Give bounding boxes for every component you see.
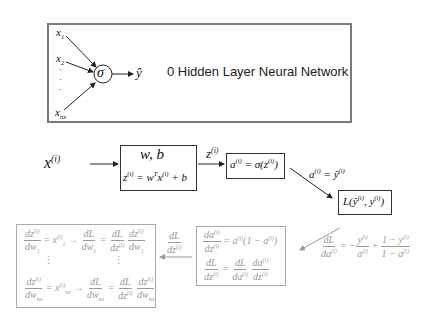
loss-function: L(ŷ(i), y(i)) — [343, 194, 384, 207]
vdots-right: ⋮ — [113, 254, 124, 267]
z-label: z(i) — [206, 146, 218, 162]
dL-dz-arrow-label: dLdz(i) — [166, 231, 183, 255]
dL-dz-equation: dLdz(i) = dLda(i) da(i)dz(i) — [203, 257, 269, 283]
dz-dwn-row: dz(i)dwnx = x(i)nx → dLdwnx = dLdz(i) dz… — [24, 276, 155, 302]
sigma-neuron: σ — [97, 65, 104, 81]
a-equals-yhat: a(i) = ŷ(i) — [309, 167, 345, 180]
diagram-title: 0 Hidden Layer Neural Network — [167, 64, 348, 79]
input-x1: x1 — [56, 26, 64, 40]
vdots-left: ⋮ — [43, 254, 54, 267]
dz-dw1-row: dz(i)dw1 = x(i)1 → dLdw1 = dLdz(i) dz(i)… — [24, 228, 145, 254]
activation-equation: a(i) = σ(z(i)) — [230, 157, 278, 170]
output-yhat: ŷ — [136, 65, 142, 81]
dL-da-equation: dLda(i) = −y(i)a(i) + 1 − y(i)1 − a(i) — [320, 234, 410, 260]
linear-equation: z(i) = wTx(i) + b — [123, 170, 187, 183]
input-dots: ··· — [59, 64, 62, 94]
params-wb: w, b — [140, 146, 164, 163]
input-x-i: x(i) — [44, 153, 60, 172]
da-dz-equation: da(i)dz(i) = a(i)(1 − a(i)) — [203, 229, 277, 255]
input-xnx: xnx — [55, 106, 66, 120]
